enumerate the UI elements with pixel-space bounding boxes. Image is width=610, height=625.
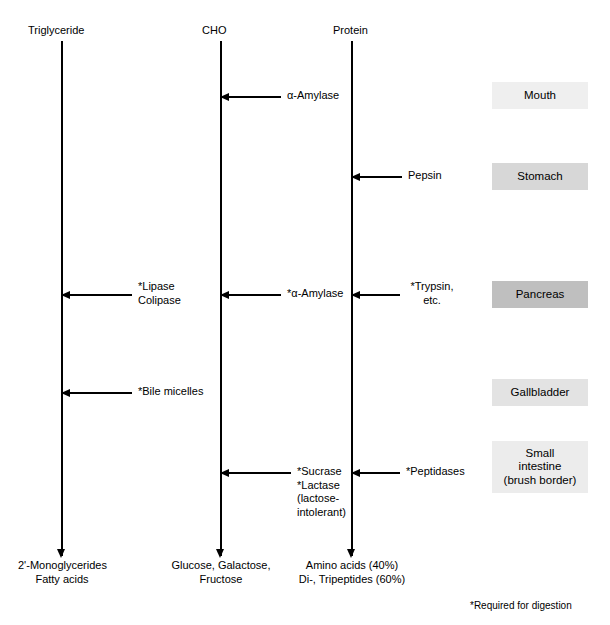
enzyme-label-bile-micelles: *Bile micelles bbox=[138, 385, 203, 399]
organ-box-small-intestine: Small intestine (brush border) bbox=[492, 441, 588, 493]
organ-label-line-3: (brush border) bbox=[504, 474, 577, 488]
enzyme-label-line-3: (lactose- bbox=[297, 492, 346, 506]
enzyme-label-line-2: Colipase bbox=[138, 294, 181, 308]
product-line-1: 2'-Monoglycerides bbox=[18, 559, 106, 573]
pathway-line-protein bbox=[351, 41, 353, 556]
arrow-peptidases bbox=[352, 472, 400, 474]
arrow-bile-micelles bbox=[62, 392, 132, 394]
organ-label-line-2: intestine bbox=[519, 460, 562, 474]
organ-label-stomach: Stomach bbox=[517, 170, 562, 184]
arrow-alpha-amylase-mouth bbox=[221, 96, 281, 98]
arrow-sucrase-lactase bbox=[221, 472, 291, 474]
product-line-2: Fatty acids bbox=[18, 573, 106, 587]
pathway-arrowhead-triglyceride bbox=[57, 549, 65, 558]
product-line-2: Fructose bbox=[166, 573, 276, 587]
product-cho: Glucose, Galactose, Fructose bbox=[166, 559, 276, 586]
organ-box-pancreas: Pancreas bbox=[492, 281, 588, 308]
pathway-arrowhead-protein bbox=[347, 549, 355, 558]
column-title-triglyceride: Triglyceride bbox=[28, 24, 84, 37]
product-line-1: Glucose, Galactose, bbox=[166, 559, 276, 573]
arrow-lipase-colipase bbox=[62, 294, 132, 296]
enzyme-label-line-1: *Trypsin, bbox=[404, 280, 460, 294]
product-line-2: Di-, Tripeptides (60%) bbox=[293, 573, 411, 587]
arrow-alpha-amylase-pancreas bbox=[221, 294, 281, 296]
enzyme-label-sucrase-lactase: *Sucrase *Lactase (lactose- intolerant) bbox=[297, 465, 346, 519]
enzyme-label-alpha-amylase-pancreas: *α-Amylase bbox=[287, 287, 343, 301]
enzyme-label-lipase-colipase: *Lipase Colipase bbox=[138, 280, 181, 307]
enzyme-label-line-1: *Lipase bbox=[138, 280, 181, 294]
arrow-trypsin bbox=[352, 294, 400, 296]
product-protein: Amino acids (40%) Di-, Tripeptides (60%) bbox=[293, 559, 411, 586]
enzyme-label-line-4: intolerant) bbox=[297, 506, 346, 520]
column-title-protein: Protein bbox=[333, 24, 368, 37]
enzyme-label-alpha-amylase-mouth: α-Amylase bbox=[287, 89, 339, 103]
organ-label-mouth: Mouth bbox=[524, 89, 556, 103]
column-title-cho: CHO bbox=[202, 24, 226, 37]
organ-label-line-1: Small bbox=[526, 447, 555, 461]
enzyme-label-trypsin: *Trypsin, etc. bbox=[404, 280, 460, 307]
pathway-line-cho bbox=[220, 41, 222, 556]
footnote: *Required for digestion bbox=[470, 600, 572, 612]
enzyme-label-pepsin: Pepsin bbox=[408, 169, 442, 183]
product-triglyceride: 2'-Monoglycerides Fatty acids bbox=[18, 559, 106, 586]
enzyme-label-line-1: *Sucrase bbox=[297, 465, 346, 479]
pathway-arrowhead-cho bbox=[216, 549, 224, 558]
enzyme-label-line-2: etc. bbox=[404, 294, 460, 308]
organ-box-gallbladder: Gallbladder bbox=[492, 379, 588, 406]
organ-box-mouth: Mouth bbox=[492, 82, 588, 109]
organ-label-pancreas: Pancreas bbox=[516, 288, 565, 302]
organ-box-stomach: Stomach bbox=[492, 163, 588, 190]
digestion-diagram: Triglyceride CHO Protein α-Amylase Pepsi… bbox=[0, 0, 610, 625]
arrow-pepsin bbox=[352, 176, 402, 178]
enzyme-label-peptidases: *Peptidases bbox=[406, 465, 465, 479]
pathway-line-triglyceride bbox=[61, 41, 63, 556]
product-line-1: Amino acids (40%) bbox=[293, 559, 411, 573]
enzyme-label-line-2: *Lactase bbox=[297, 479, 346, 493]
organ-label-gallbladder: Gallbladder bbox=[511, 386, 570, 400]
